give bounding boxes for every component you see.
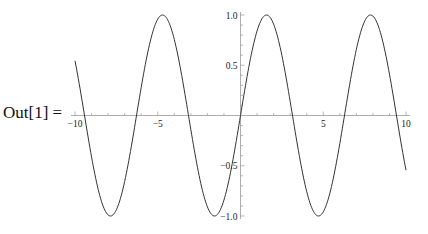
y-tick-label: 1.0 bbox=[226, 11, 238, 21]
x-tick-label: 10 bbox=[401, 119, 411, 129]
tick-labels: −10−55101.00.5−0.5−1.0 bbox=[68, 11, 411, 222]
x-tick-label: −5 bbox=[153, 119, 163, 129]
y-tick-label: −0.5 bbox=[220, 161, 237, 171]
x-tick-label: 5 bbox=[321, 119, 326, 129]
y-tick-label: −1.0 bbox=[220, 212, 237, 222]
sine-plot: −10−55101.00.5−0.5−1.0 bbox=[0, 0, 428, 234]
y-tick-label: 0.5 bbox=[226, 61, 238, 71]
x-tick-label: −10 bbox=[68, 119, 83, 129]
